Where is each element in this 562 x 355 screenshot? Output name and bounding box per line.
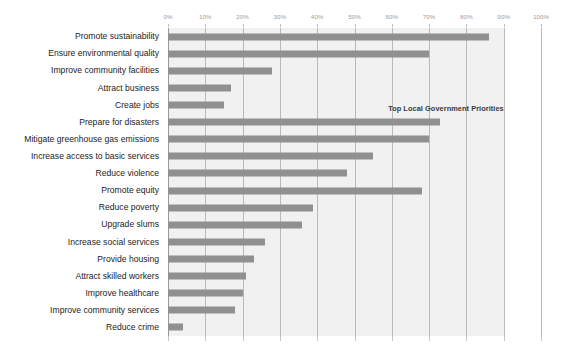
chart-row: Improve community facilities [0,62,562,79]
bar-track [168,268,541,285]
chart-row: Attract skilled workers [0,268,562,285]
tick-label-80: 80% [460,13,473,20]
chart-row: Prepare for disasters [0,114,562,131]
chart-row: Reduce poverty [0,199,562,216]
tick-label-50: 50% [348,13,361,20]
bar-track [168,79,541,96]
bar [168,290,243,297]
bottom-tick-100 [541,336,542,341]
tick-mark-60 [392,24,393,27]
bar-track [168,45,541,62]
bar [168,221,302,228]
bottom-tick-50 [355,336,356,341]
tick-label-30: 30% [274,13,287,20]
bar [168,238,265,245]
tick-label-60: 60% [385,13,398,20]
bar-track [168,182,541,199]
tick-mark-80 [466,24,467,27]
bar [168,119,440,126]
chart-row: Increase social services [0,233,562,250]
bar [168,67,272,74]
bar-track [168,199,541,216]
tick-label-0: 0% [163,13,172,20]
bottom-tick-40 [317,336,318,341]
bar [168,324,183,331]
bar-track [168,148,541,165]
chart-row: Attract business [0,79,562,96]
bottom-tick-70 [429,336,430,341]
bottom-tick-0 [168,336,169,341]
bar [168,153,373,160]
tick-label-90: 90% [497,13,510,20]
bar-track [168,250,541,267]
chart-rows: Promote sustainabilityEnsure environment… [0,28,562,336]
category-label: Reduce crime [0,323,164,332]
chart-row: Ensure environmental quality [0,45,562,62]
category-label: Prepare for disasters [0,118,164,127]
category-label: Promote sustainability [0,32,164,41]
bottom-tick-90 [504,336,505,341]
x-axis-tick-labels: 0%10%20%30%40%50%60%70%80%90%100% [168,13,541,26]
tick-mark-100 [541,24,542,27]
bottom-tick-60 [392,336,393,341]
chart-row: Promote sustainability [0,28,562,45]
tick-mark-30 [280,24,281,27]
tick-label-20: 20% [236,13,249,20]
tick-mark-70 [429,24,430,27]
bar-track [168,62,541,79]
tick-mark-40 [317,24,318,27]
category-label: Provide housing [0,255,164,264]
category-label: Upgrade slums [0,220,164,229]
tick-label-40: 40% [311,13,324,20]
bar [168,307,235,314]
bar-track [168,233,541,250]
tick-mark-10 [205,24,206,27]
bar-track [168,302,541,319]
bar [168,84,231,91]
bar-track [168,285,541,302]
category-label: Attract business [0,84,164,93]
bar-track [168,28,541,45]
chart-row: Promote equity [0,182,562,199]
chart-row: Reduce crime [0,319,562,336]
chart-row: Improve healthcare [0,285,562,302]
category-label: Reduce poverty [0,203,164,212]
category-label: Create jobs [0,101,164,110]
chart-row: Improve community services [0,302,562,319]
category-label: Attract skilled workers [0,272,164,281]
bar [168,255,254,262]
tick-mark-50 [355,24,356,27]
tick-label-100: 100% [533,13,549,20]
chart-annotation: Top Local Government Priorities [168,104,541,113]
category-label: Promote equity [0,186,164,195]
bar [168,50,429,57]
bar-track [168,131,541,148]
category-label: Mitigate greenhouse gas emissions [0,135,164,144]
bar-track [168,319,541,336]
chart-row: Increase access to basic services [0,148,562,165]
chart-row: Provide housing [0,250,562,267]
tick-mark-0 [168,24,169,27]
bar [168,204,313,211]
category-label: Improve community services [0,306,164,315]
category-label: Increase social services [0,238,164,247]
category-label: Increase access to basic services [0,152,164,161]
category-label: Reduce violence [0,169,164,178]
bar [168,187,422,194]
bar-track [168,165,541,182]
chart-row: Mitigate greenhouse gas emissions [0,131,562,148]
category-label: Improve healthcare [0,289,164,298]
tick-mark-20 [243,24,244,27]
category-label: Improve community facilities [0,66,164,75]
tick-mark-90 [504,24,505,27]
bottom-tick-10 [205,336,206,341]
bar-track [168,114,541,131]
bottom-tick-30 [280,336,281,341]
chart-row: Reduce violence [0,165,562,182]
bar [168,136,429,143]
bar-chart: 0%10%20%30%40%50%60%70%80%90%100% Promot… [0,0,562,355]
bar [168,33,489,40]
bar [168,170,347,177]
x-axis-bottom-ticks [168,336,541,342]
bar [168,273,246,280]
